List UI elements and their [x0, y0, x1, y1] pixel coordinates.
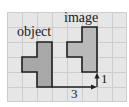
horizontal-translation-label: 3: [71, 86, 78, 101]
image-label: image: [64, 10, 98, 25]
vertical-translation-label: 1: [101, 71, 108, 86]
translation-diagram: object image 3 1: [0, 0, 129, 107]
object-label: object: [17, 24, 51, 39]
